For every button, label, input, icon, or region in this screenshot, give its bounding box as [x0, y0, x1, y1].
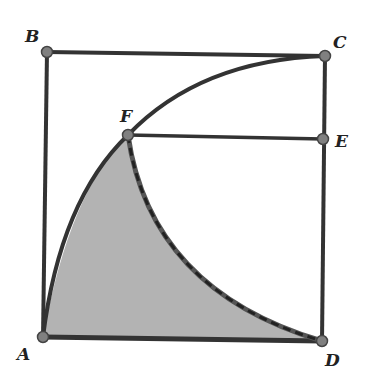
point-A — [38, 332, 49, 343]
label-F: F — [119, 106, 134, 126]
point-D — [317, 336, 328, 347]
shaded-region-AFD — [43, 135, 322, 341]
point-F — [123, 130, 134, 141]
label-B: B — [24, 26, 39, 46]
label-C: C — [333, 32, 347, 52]
segment-CD — [322, 56, 325, 341]
label-A: A — [15, 344, 30, 364]
point-B — [42, 47, 53, 58]
point-C — [320, 51, 331, 62]
geometry-figure: A B C D E F — [0, 0, 372, 386]
segment-FE — [128, 135, 323, 139]
segment-BC — [47, 52, 325, 56]
label-E: E — [334, 131, 349, 151]
point-E — [318, 134, 329, 145]
segment-AB — [43, 52, 47, 337]
label-D: D — [324, 350, 340, 370]
